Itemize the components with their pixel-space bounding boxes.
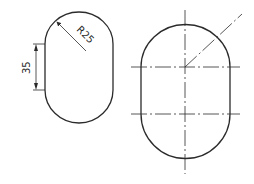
diagonal-centerline <box>185 14 242 67</box>
right-view <box>131 10 242 174</box>
dim-arrow-bottom <box>34 83 38 90</box>
technical-drawing: R25 35 <box>0 0 254 184</box>
left-view: R25 35 <box>21 12 113 123</box>
right-slot-outline <box>141 25 230 159</box>
radius-label: R25 <box>75 24 97 46</box>
length-label: 35 <box>21 61 32 74</box>
dim-arrow-top <box>34 44 38 51</box>
